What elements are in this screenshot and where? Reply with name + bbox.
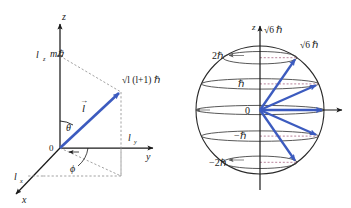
left-diagram-panel: z l z mℏ √l (l+1) ℏ l → θ ϕ 0 l y y l — [0, 0, 176, 208]
z-axis-label: z — [251, 22, 256, 32]
m-level-label-plus-1: ℏ — [238, 78, 244, 89]
angular-momentum-vector — [60, 93, 119, 148]
m-level-label-plus-2: 2ℏ — [212, 50, 223, 61]
origin-label: 0 — [245, 105, 250, 116]
right-diagram-panel: z √6 ℏ √6 ℏ 2ℏ ℏ 0 −ℏ −2ℏ — [176, 0, 351, 208]
lx-axis-label: l — [14, 171, 17, 182]
projection-construction-lines — [28, 56, 121, 176]
y-axis-label: y — [145, 151, 151, 162]
magnitude-label: √l (l+1) ℏ — [122, 75, 160, 86]
origin-label: 0 — [49, 143, 54, 153]
theta-label: θ — [66, 122, 71, 133]
x-axis-label: x — [21, 194, 27, 205]
phi-label: ϕ — [70, 163, 75, 174]
vector-arrow-accent: → — [80, 96, 88, 105]
right-diagram-svg: z √6 ℏ √6 ℏ 2ℏ ℏ 0 −ℏ −2ℏ — [176, 0, 351, 208]
lz-axis-subscript: z — [42, 55, 46, 62]
x-axis-line — [16, 148, 60, 194]
m-level-label-minus-1: −ℏ — [234, 130, 246, 141]
left-diagram-svg: z l z mℏ √l (l+1) ℏ l → θ ϕ 0 l y y l — [0, 0, 176, 208]
radius-label-top: √6 ℏ — [264, 25, 282, 35]
z-axis-label: z — [61, 11, 66, 22]
figure-root: z l z mℏ √l (l+1) ℏ l → θ ϕ 0 l y y l — [0, 0, 351, 208]
lx-axis-subscript: x — [19, 177, 23, 184]
ly-axis-subscript: y — [133, 138, 137, 145]
radius-label: √6 ℏ — [300, 40, 318, 50]
ly-axis-label: l — [128, 132, 131, 143]
z-projection-label: mℏ — [50, 48, 64, 59]
lz-axis-label: l — [36, 49, 39, 60]
m-level-label-minus-2: −2ℏ — [209, 157, 226, 168]
